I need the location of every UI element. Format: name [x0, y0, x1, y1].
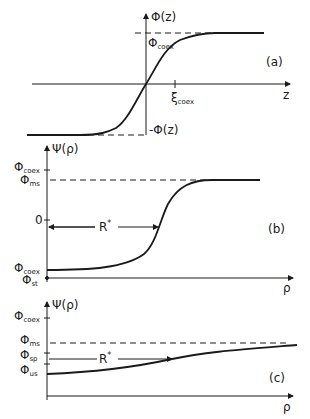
- subscript: coex: [157, 43, 173, 51]
- superscript: *: [107, 351, 111, 360]
- panel-b-profile: [47, 180, 260, 270]
- panel-b-tick-phi-ms: Φms: [20, 174, 40, 188]
- figure: Φ(z) Φcoex (a) z ξcoex -Φ(z) Ψ(ρ) Φcoex …: [0, 0, 310, 419]
- subscript: st: [31, 280, 37, 288]
- panel-a-lower-level-label: -Φ(z): [149, 124, 178, 136]
- figure-graphics: [0, 0, 310, 419]
- panel-b-axes: [44, 146, 293, 282]
- subscript: coex: [178, 98, 194, 106]
- subscript: coex: [23, 316, 39, 324]
- panel-b-x-axis-label: ρ: [283, 282, 291, 294]
- panel-b-y-axis-label: Ψ(ρ): [52, 143, 78, 155]
- panel-a-tag: (a): [266, 56, 283, 68]
- superscript: *: [107, 219, 111, 228]
- panel-c-y-axis-label: Ψ(ρ): [52, 299, 78, 311]
- panel-b-tick-zero: 0: [35, 214, 43, 226]
- panel-b-tag: (b): [268, 223, 285, 235]
- subscript: ms: [29, 180, 39, 188]
- panel-c-x-axis-label: ρ: [283, 401, 291, 413]
- panel-c-tick-phi-us: Φus: [20, 364, 38, 378]
- xi-symbol: ξ: [171, 91, 178, 105]
- subscript: ms: [29, 340, 39, 348]
- panel-a-x-axis-label: z: [283, 89, 289, 101]
- panel-c-tag: (c): [269, 372, 285, 384]
- panel-a-upper-level-label: Φcoex: [148, 37, 174, 51]
- panel-a-xi-tick-label: ξcoex: [171, 92, 194, 106]
- subscript: sp: [29, 355, 37, 363]
- panel-c-tick-phi-coex: Φcoex: [14, 310, 40, 324]
- panel-a-y-axis-label: Φ(z): [151, 11, 176, 23]
- panel-c-axes: [44, 302, 293, 400]
- panel-c-tick-phi-ms: Φms: [20, 334, 40, 348]
- panel-b-radius-label: R*: [99, 220, 111, 233]
- panel-c-radius-label: R*: [99, 352, 111, 365]
- panel-b-tick-phi-st: Φst: [22, 274, 38, 288]
- panel-c-tick-phi-sp: Φsp: [20, 349, 38, 363]
- subscript: us: [29, 370, 37, 378]
